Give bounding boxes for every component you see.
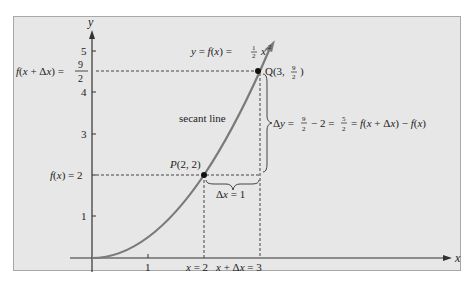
point-p-label: P(2, 2): [169, 158, 201, 171]
y-axis-label: y: [87, 15, 94, 29]
delta-x-label: Δx = 1: [216, 188, 245, 200]
fx-delta-label: f(x + Δx) = 9 2: [16, 59, 88, 84]
svg-text:Δy =: Δy =: [273, 117, 294, 129]
svg-text:2: 2: [302, 125, 306, 133]
point-q-label: Q(3, 9 2 ): [265, 64, 304, 81]
secant-diagram: y x 1 1 3 4 5 y = f(x) = 1 2 x 2 Q(3, 9 …: [0, 0, 474, 299]
svg-text:2: 2: [292, 73, 296, 81]
svg-text:= f(x + Δx) − f(x): = f(x + Δx) − f(x): [351, 117, 426, 130]
svg-text:5: 5: [342, 115, 346, 123]
svg-text:9: 9: [302, 115, 306, 123]
svg-text:f(x + Δx) =: f(x + Δx) =: [16, 65, 64, 78]
y-tick-label-4: 4: [81, 86, 87, 98]
curve-label: y = f(x) = 1 2 x 2: [190, 43, 272, 60]
y-tick-label-5: 5: [81, 45, 87, 57]
delta-y-brace: [263, 74, 272, 172]
svg-text:Q(3,: Q(3,: [265, 65, 285, 78]
y-tick-label-1: 1: [81, 210, 87, 222]
x-plus-dx-label: x + Δx = 3: [215, 261, 262, 273]
secant-line-label: secant line: [179, 112, 226, 124]
svg-text:y = f(x) =: y = f(x) =: [190, 45, 232, 58]
x-tick-label-1: 1: [145, 261, 151, 273]
svg-text:9: 9: [292, 64, 296, 72]
y-axis-arrow-icon: [89, 30, 95, 39]
x-axis-label: x: [454, 251, 461, 265]
parabola-curve: [92, 48, 270, 258]
svg-text:9: 9: [78, 59, 83, 70]
svg-text:− 2 =: − 2 =: [311, 117, 334, 129]
svg-text:x: x: [260, 45, 266, 57]
point-p: [201, 172, 207, 178]
fx-label: f(x) = 2: [50, 169, 83, 182]
svg-text:2: 2: [78, 73, 83, 84]
svg-text:1: 1: [252, 44, 256, 52]
x-axis-arrow-icon: [443, 255, 452, 261]
x-eq-2-label: x = 2: [185, 261, 208, 273]
svg-text:2: 2: [342, 125, 346, 133]
svg-text:): ): [300, 65, 304, 78]
delta-y-label: Δy = 9 2 − 2 = 5 2 = f(x + Δx) − f(x): [273, 115, 426, 133]
svg-text:2: 2: [252, 52, 256, 60]
point-q: [255, 68, 261, 74]
y-tick-label-3: 3: [81, 128, 87, 140]
svg-text:2: 2: [268, 43, 272, 51]
